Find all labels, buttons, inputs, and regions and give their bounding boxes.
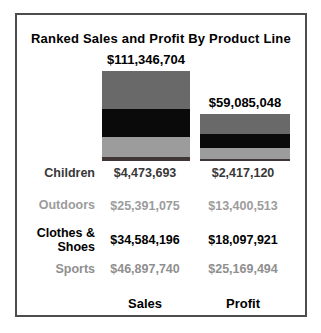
- row-sales-value: $46,897,740: [95, 262, 195, 276]
- bar-segment-clothes-shoes: [102, 109, 190, 137]
- chart-screenshot: Ranked Sales and Profit By Product Line …: [0, 0, 321, 333]
- row-profit-value: $18,097,921: [195, 233, 291, 247]
- row-sales-value: $4,473,693: [95, 166, 195, 180]
- profit-column-header: Profit: [195, 296, 291, 311]
- row-label: Children: [17, 166, 95, 180]
- sales-bar-column: $111,346,704: [102, 52, 190, 161]
- row-label: Clothes & Shoes: [17, 226, 95, 255]
- table-row-children: Children $4,473,693 $2,417,120: [17, 157, 305, 189]
- sales-total-label: $111,346,704: [107, 52, 185, 67]
- bar-segment-sports: [200, 114, 290, 134]
- row-profit-value: $2,417,120: [195, 166, 291, 180]
- table-row-sports: Sports $46,897,740 $25,169,494: [17, 258, 305, 280]
- table-row-clothes-shoes: Clothes & Shoes $34,584,196 $18,097,921: [17, 222, 305, 258]
- value-table: Children $4,473,693 $2,417,120 Outdoors …: [17, 157, 305, 318]
- chart-panel: Ranked Sales and Profit By Product Line …: [15, 13, 307, 317]
- bar-segment-sports: [102, 71, 190, 109]
- bar-segment-outdoors: [102, 137, 190, 157]
- table-footer: Sales Profit: [17, 288, 305, 318]
- row-label: Outdoors: [17, 198, 95, 212]
- sales-column-header: Sales: [95, 296, 195, 311]
- row-sales-value: $25,391,075: [95, 199, 195, 213]
- sales-bar: [102, 71, 190, 161]
- table-row-outdoors: Outdoors $25,391,075 $13,400,513: [17, 189, 305, 222]
- row-label: Sports: [17, 262, 95, 276]
- chart-plot-area: $111,346,704 $59,085,048: [17, 43, 305, 161]
- profit-total-label: $59,085,048: [209, 95, 281, 110]
- profit-bar: [200, 114, 290, 161]
- row-profit-value: $13,400,513: [195, 199, 291, 213]
- bar-segment-clothes-shoes: [200, 134, 290, 148]
- row-profit-value: $25,169,494: [195, 262, 291, 276]
- row-sales-value: $34,584,196: [95, 233, 195, 247]
- profit-bar-column: $59,085,048: [200, 95, 290, 161]
